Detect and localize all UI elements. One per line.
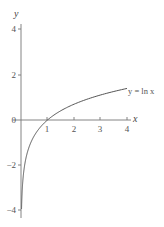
curve-label: y = ln x	[128, 86, 155, 96]
chart: 4 2 0 −2 −4 1 2 3 4 y x y = ln x	[0, 0, 164, 227]
y-axis-label: y	[13, 8, 19, 19]
y-tick-label-2: 2	[12, 70, 17, 80]
y-tick-label-4: 4	[12, 24, 17, 34]
ln-curve	[22, 88, 127, 209]
x-tick-label-2: 2	[72, 124, 77, 134]
x-tick-label-3: 3	[98, 124, 103, 134]
y-tick-label-neg4: −4	[6, 205, 16, 215]
x-tick-label-4: 4	[125, 124, 130, 134]
y-tick-label-0: 0	[12, 115, 17, 125]
x-axis-label: x	[132, 113, 138, 124]
y-tick-label-neg2: −2	[6, 160, 16, 170]
x-tick-label-1: 1	[45, 124, 50, 134]
